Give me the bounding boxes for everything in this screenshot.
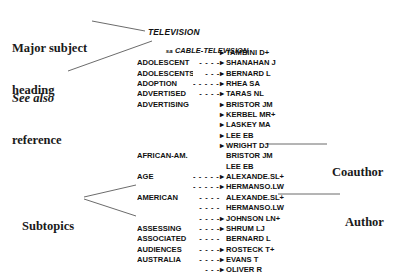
index-row: ▸LEE EB (137, 131, 284, 141)
index-row: - - -▸OLIVER R (137, 265, 284, 275)
index-row-leader: - - - - (193, 255, 220, 264)
index-row: - - - -▸JOHNSON LN+ (137, 214, 284, 224)
index-row: ADOPTION- - - - - -▸RHEA SA (137, 79, 284, 89)
index-row-subject: ASSESSING (137, 224, 193, 233)
index-row-subject: AUDIENCES (137, 245, 193, 254)
index-row: LEE EB (137, 162, 284, 172)
index-row-name: LEE EB (226, 162, 253, 171)
index-row-subject: ADOLESCENTS (137, 69, 193, 78)
index-row: AUDIENCES- - - -▸ROSTECK T+ (137, 245, 284, 255)
callout-subtopics: Subtopics (22, 191, 74, 261)
index-row: ADVERTISING▸BRISTOR JM (137, 100, 284, 110)
index-row-name: ALEXANDE.SL+ (226, 172, 284, 181)
index-row-leader: - - - (193, 265, 220, 274)
index-row: AFRICAN-AM.BRISTOR JM (137, 151, 284, 161)
callout-subtopics-label: Subtopics (22, 219, 74, 233)
index-row: ▸KERBEL MR+ (137, 110, 284, 120)
index-row-name: WRIGHT DJ (226, 141, 269, 150)
index-row-subject: ADVERTISING (137, 100, 193, 109)
index-row: ▸LASKEY MA (137, 120, 284, 130)
index-row-leader: - - - - (193, 245, 220, 254)
callout-see-also-reference-line2: reference (12, 133, 62, 147)
index-row-leader: - - - - (193, 58, 220, 67)
index-row: ADOLESCENT- - - -▸SHANAHAN J (137, 58, 284, 68)
index-row: - - - - - - - - - - -▸HERMANSO.LW (137, 182, 284, 192)
index-row: - - - -HERMANSO.LW (137, 203, 284, 213)
index-row-name: ALEXANDE.SL+ (226, 193, 284, 202)
index-row-leader: - - - - - - - - - - - (193, 172, 220, 181)
callout-coauthor-label: Coauthor (332, 165, 383, 179)
subject-heading: TELEVISION (148, 27, 200, 37)
connector-major-heading (92, 21, 145, 31)
index-row: AGE- - - - - - - - - - -▸ALEXANDE.SL+ (137, 172, 284, 182)
index-row-name: BERNARD L (226, 69, 271, 78)
index-row-leader: - - - - (193, 89, 220, 98)
connector-subtopics-upper (84, 185, 136, 197)
index-row: ▸TAMBINI D+ (137, 48, 284, 58)
index-row-subject: AUSTRALIA (137, 255, 193, 264)
index-row-subject: AFRICAN-AM. (137, 151, 193, 160)
index-row-name: BRISTOR JM (226, 151, 273, 160)
index-row-subject: ASSOCIATED (137, 234, 193, 243)
index-row-leader: - - - - (193, 203, 220, 212)
index-row-name: LEE EB (226, 131, 253, 140)
index-row: ▸WRIGHT DJ (137, 141, 284, 151)
index-row-name: KERBEL MR+ (226, 110, 275, 119)
index-row: AMERICAN- - - -ALEXANDE.SL+ (137, 193, 284, 203)
index-row-name: TAMBINI D+ (226, 48, 269, 57)
index-row-leader: - - - - (193, 193, 220, 202)
index-row-name: HERMANSO.LW (226, 182, 284, 191)
index-row-subject: AMERICAN (137, 193, 193, 202)
index-row-leader: - - - - (193, 214, 220, 223)
index-row-leader: - - - - (193, 224, 220, 233)
callout-see-also-reference-line1: See also (12, 91, 62, 105)
index-row-name: EVANS T (226, 255, 258, 264)
index-row: ASSOCIATED- - - -BERNARD L (137, 234, 284, 244)
index-row-name: JOHNSON LN+ (226, 214, 280, 223)
index-row-leader: - - - - - - - - - - - (193, 182, 220, 191)
index-row-subject: ADVERTISED (137, 89, 193, 98)
index-row-name: OLIVER R (226, 265, 262, 274)
index-row: AUSTRALIA- - - -▸EVANS T (137, 255, 284, 265)
index-row-name: SHRUM LJ (226, 224, 265, 233)
index-row-name: LASKEY MA (226, 120, 271, 129)
index-row: ADVERTISED- - - -▸TARAS NL (137, 89, 284, 99)
connector-subtopics-lower (84, 199, 136, 216)
index-row-subject: ADOLESCENT (137, 58, 193, 67)
index-row-name: TARAS NL (226, 89, 264, 98)
index-row: ADOLESCENTS- - -▸BERNARD L (137, 69, 284, 79)
callout-see-also-reference: See also reference (12, 63, 62, 175)
index-rows: ▸TAMBINI D+ADOLESCENT- - - -▸SHANAHAN JA… (137, 48, 284, 276)
index-row-leader: - - - (193, 69, 220, 78)
index-row-leader: - - - - (193, 234, 220, 243)
index-row-name: SHANAHAN J (226, 58, 276, 67)
callout-author: Author (345, 187, 384, 257)
callout-major-subject-heading-line1: Major subject (12, 41, 87, 55)
index-row: ASSESSING- - - -▸SHRUM LJ (137, 224, 284, 234)
index-row-name: HERMANSO.LW (226, 203, 284, 212)
index-row-name: BRISTOR JM (226, 100, 273, 109)
index-row-name: RHEA SA (226, 79, 260, 88)
index-row-subject: ADOPTION (137, 79, 193, 88)
callout-author-label: Author (345, 215, 384, 229)
index-row-subject: AGE (137, 172, 193, 181)
index-row-name: BERNARD L (226, 234, 271, 243)
index-row-leader: - - - - - - (193, 79, 220, 88)
index-row-name: ROSTECK T+ (226, 245, 274, 254)
